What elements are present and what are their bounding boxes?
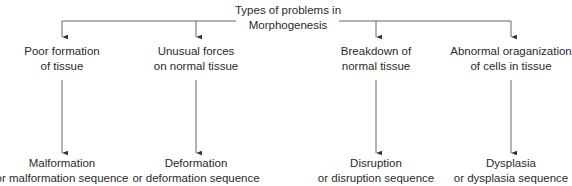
cause-1-line1: Poor formation (24, 44, 99, 59)
result-3-line2: or disruption sequence (318, 171, 434, 186)
result-2-line2: or deformation sequence (132, 171, 259, 186)
cause-3-line2: normal tissue (341, 59, 411, 74)
cause-2-line2: on normal tissue (154, 59, 238, 74)
cause-node-4: Abnormal oraganization of cells in tissu… (450, 44, 571, 74)
result-4-line1: Dysplasia (454, 156, 568, 171)
cause-1-line2: of tissue (24, 59, 99, 74)
result-node-2: Deformation or deformation sequence (132, 156, 259, 186)
cause-4-line2: of cells in tissue (450, 59, 571, 74)
result-4-line2: or dysplasia sequence (454, 171, 568, 186)
cause-3-line1: Breakdown of (341, 44, 411, 59)
cause-node-2: Unusual forces on normal tissue (154, 44, 238, 74)
result-node-3: Disruption or disruption sequence (318, 156, 434, 186)
cause-node-1: Poor formation of tissue (24, 44, 99, 74)
result-node-4: Dysplasia or dysplasia sequence (454, 156, 568, 186)
cause-node-3: Breakdown of normal tissue (341, 44, 411, 74)
cause-4-line1: Abnormal oraganization (450, 44, 571, 59)
result-2-line1: Deformation (132, 156, 259, 171)
result-3-line1: Disruption (318, 156, 434, 171)
root-title: Types of problems in Morphogenesis (235, 3, 341, 33)
result-1-line2: or malformation sequence (0, 171, 128, 186)
root-title-line2: Morphogenesis (235, 18, 341, 33)
result-node-1: Malformation or malformation sequence (0, 156, 128, 186)
result-1-line1: Malformation (0, 156, 128, 171)
cause-2-line1: Unusual forces (154, 44, 238, 59)
root-title-line1: Types of problems in (235, 3, 341, 18)
